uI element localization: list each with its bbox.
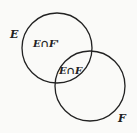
region-e-and-f-label: E∩F xyxy=(58,65,83,76)
set-f-circle xyxy=(55,51,125,121)
region-e-not-f-label: E∩F' xyxy=(32,38,59,49)
venn-diagram: E E∩F' E∩F F xyxy=(0,0,137,133)
set-f-label: F xyxy=(117,112,127,125)
set-e-label: E xyxy=(9,28,19,41)
